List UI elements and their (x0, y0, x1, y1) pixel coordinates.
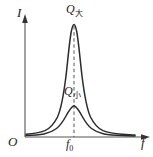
plot-area (0, 0, 153, 157)
high-q-resonance-curve (26, 25, 135, 136)
low-q-peak-label: Q小 (64, 85, 81, 100)
y-axis-label: I (17, 6, 21, 19)
high-q-peak-base: Q (66, 2, 75, 16)
low-q-peak-subscript: 小 (73, 91, 81, 100)
low-q-peak-base: Q (64, 84, 73, 98)
high-q-peak-subscript: 大 (75, 9, 83, 18)
high-q-peak-label: Q大 (66, 3, 83, 18)
origin-label: O (8, 135, 17, 148)
y-axis-arrow-icon (22, 14, 28, 23)
resonance-curve-figure: I O f f0 Q大 Q小 (0, 0, 153, 157)
center-frequency-tick-label: f0 (66, 138, 73, 153)
center-frequency-subscript: 0 (69, 144, 73, 153)
x-axis-label: f (141, 136, 145, 149)
